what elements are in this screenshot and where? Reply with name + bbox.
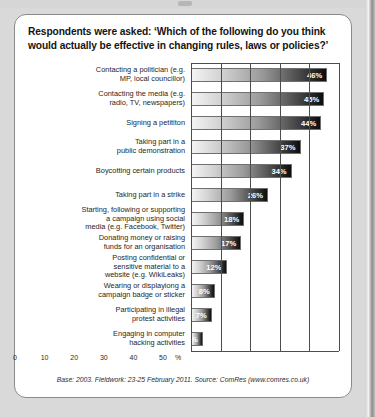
x-tick-label: 10 — [41, 354, 49, 361]
x-tick-label: 40 — [129, 354, 137, 361]
bar-row: Wearing or displayiong a campaign badge … — [15, 279, 353, 303]
bar-value-label: 8% — [199, 287, 214, 296]
bar-category-label: Posting confidential or sensitive materi… — [15, 254, 191, 280]
scan-artifact-mark — [178, 1, 192, 6]
bar-track: 26% — [191, 183, 339, 207]
bar-category-label: Taking part in a public demonstration — [15, 138, 191, 155]
bar-category-label: Starting, following or supporting a camp… — [15, 206, 191, 232]
bar: 45% — [191, 92, 324, 106]
bar: 44% — [191, 116, 321, 130]
bar-row: Donating money or raising funds for an o… — [15, 231, 353, 255]
bar-row: Participating in illegal protest activit… — [15, 303, 353, 327]
chart-title: Respondents were asked: ‘Which of the fo… — [28, 25, 342, 53]
bar-track: 17% — [191, 231, 339, 255]
bar: 12% — [191, 260, 227, 274]
bar-track: 4% — [191, 327, 339, 351]
plot-area: Contacting a politician (e.g. MP, local … — [15, 63, 353, 363]
bar-row: Posting confidential or sensitive materi… — [15, 255, 353, 279]
x-axis-ticks: 01020304050 — [15, 352, 163, 366]
bar-track: 7% — [191, 303, 339, 327]
bar-track: 37% — [191, 135, 339, 159]
bar: 37% — [191, 140, 301, 154]
bar: 8% — [191, 284, 215, 298]
bar-row: Taking part in a public demonstration37% — [15, 135, 353, 159]
x-tick-label: 30 — [100, 354, 108, 361]
bar-category-label: Engaging in computer hacking activities — [15, 330, 191, 347]
bar-value-label: 17% — [221, 239, 240, 248]
bar-category-label: Taking part in a strike — [15, 191, 191, 200]
bar-value-label: 18% — [224, 215, 243, 224]
bar: 18% — [191, 212, 244, 226]
bar-track: 8% — [191, 279, 339, 303]
bar-value-label: 26% — [248, 191, 267, 200]
bar-value-label: 34% — [271, 167, 290, 176]
bar-category-label: Participating in illegal protest activit… — [15, 306, 191, 323]
bar-track: 12% — [191, 255, 339, 279]
bar-track: 44% — [191, 111, 339, 135]
x-axis-unit-label: % — [175, 354, 181, 361]
bar-row: Taking part in a strike26% — [15, 183, 353, 207]
x-tick-label: 50 — [159, 354, 167, 361]
bar-category-label: Signing a petititon — [15, 119, 191, 128]
bar-row: Contacting a politician (e.g. MP, local … — [15, 63, 353, 87]
bar: 7% — [191, 308, 212, 322]
bar-value-label: 37% — [280, 143, 299, 152]
bar-category-label: Contacting a politician (e.g. MP, local … — [15, 66, 191, 83]
chart-figure: Respondents were asked: ‘Which of the fo… — [14, 14, 352, 398]
bar-row: Starting, following or supporting a camp… — [15, 207, 353, 231]
bar-row: Boycotting certain products34% — [15, 159, 353, 183]
x-tick-label: 20 — [70, 354, 78, 361]
bar-track: 34% — [191, 159, 339, 183]
bar-value-label: 44% — [301, 119, 320, 128]
bar-value-label: 7% — [196, 311, 211, 320]
bar: 4% — [191, 332, 203, 346]
bar-value-label: 4% — [187, 335, 202, 344]
bar-value-label: 12% — [206, 263, 225, 272]
bar-row: Contacting the media (e.g. radio, TV, ne… — [15, 87, 353, 111]
bar-track: 45% — [191, 87, 339, 111]
bar-row: Engaging in computer hacking activities4… — [15, 327, 353, 351]
x-tick-label: 0 — [13, 354, 17, 361]
bar-row: Signing a petititon44% — [15, 111, 353, 135]
bar: 34% — [191, 164, 292, 178]
bar-track: 18% — [191, 207, 339, 231]
bar-value-label: 45% — [304, 95, 323, 104]
bar: 46% — [191, 68, 327, 82]
bar-rows: Contacting a politician (e.g. MP, local … — [15, 63, 353, 351]
bar-category-label: Donating money or raising funds for an o… — [15, 234, 191, 251]
bar-value-label: 46% — [307, 71, 326, 80]
bar-track: 46% — [191, 63, 339, 87]
bar-category-label: Wearing or displayiong a campaign badge … — [15, 282, 191, 299]
bar-category-label: Boycotting certain products — [15, 167, 191, 176]
scan-page-edge-right — [365, 0, 375, 417]
axis-bottom-line — [191, 351, 339, 352]
bar: 17% — [191, 236, 241, 250]
bar-category-label: Contacting the media (e.g. radio, TV, ne… — [15, 90, 191, 107]
chart-source-note: Base: 2003. Fieldwork: 23-25 February 20… — [15, 376, 351, 383]
bar: 26% — [191, 188, 268, 202]
